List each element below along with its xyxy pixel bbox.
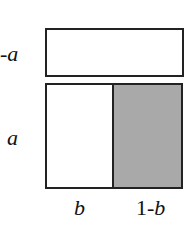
label-bottom-row: a — [7, 127, 18, 149]
label-right-column-prefix: 1- — [136, 195, 154, 217]
label-top-row: -a — [0, 43, 18, 65]
shaded-region — [114, 85, 181, 187]
label-left-column: b — [74, 197, 85, 217]
label-right-column-var: b — [154, 195, 165, 217]
label-right-column: 1-b — [136, 197, 165, 217]
top-rectangle — [45, 28, 184, 77]
column-divider — [112, 83, 114, 189]
